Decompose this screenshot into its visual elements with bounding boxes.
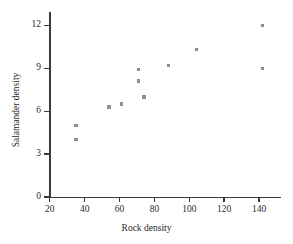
y-axis-line xyxy=(49,12,51,198)
x-tick-20 xyxy=(49,197,50,202)
x-tick-100 xyxy=(189,197,190,202)
x-tick-label-40: 40 xyxy=(70,204,100,214)
x-tick-140 xyxy=(258,197,259,202)
data-point xyxy=(137,68,140,71)
data-point xyxy=(261,67,264,70)
data-point xyxy=(167,64,170,67)
data-point xyxy=(137,79,140,82)
data-point xyxy=(107,105,110,108)
scatter-plot-figure: 036912 20406080100120140 Rock density Sa… xyxy=(0,0,293,244)
data-point xyxy=(195,48,198,51)
y-tick-label-0: 0 xyxy=(19,191,41,201)
y-tick-12 xyxy=(44,25,49,26)
y-tick-label-12: 12 xyxy=(19,19,41,29)
y-tick-label-3: 3 xyxy=(19,148,41,158)
y-tick-6 xyxy=(44,111,49,112)
x-tick-label-20: 20 xyxy=(35,204,65,214)
x-tick-label-120: 120 xyxy=(209,204,239,214)
x-tick-40 xyxy=(84,197,85,202)
data-point xyxy=(261,24,264,27)
x-tick-120 xyxy=(223,197,224,202)
y-tick-label-6: 6 xyxy=(19,105,41,115)
y-axis-title: Salamander density xyxy=(11,50,21,170)
data-point xyxy=(74,138,77,141)
x-tick-label-60: 60 xyxy=(105,204,135,214)
y-tick-3 xyxy=(44,153,49,154)
plot-area: 036912 20406080100120140 Rock density Sa… xyxy=(0,0,293,244)
y-tick-label-9: 9 xyxy=(19,62,41,72)
data-point xyxy=(74,124,77,127)
data-point xyxy=(142,95,145,98)
x-tick-60 xyxy=(119,197,120,202)
x-axis-title: Rock density xyxy=(0,223,293,233)
data-point xyxy=(120,102,123,105)
y-tick-9 xyxy=(44,68,49,69)
x-tick-label-80: 80 xyxy=(139,204,169,214)
x-tick-label-140: 140 xyxy=(244,204,274,214)
x-tick-80 xyxy=(154,197,155,202)
x-tick-label-100: 100 xyxy=(174,204,204,214)
